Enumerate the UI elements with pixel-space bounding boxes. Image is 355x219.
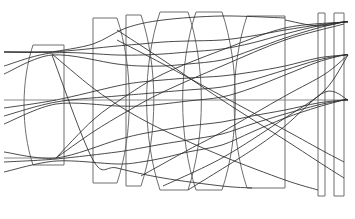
element-8-cover-plate <box>334 13 344 196</box>
cross-ray-5 <box>52 54 318 190</box>
crossing-ray-layer <box>4 16 348 190</box>
element-6-rear-positive <box>234 16 285 188</box>
cross-ray-9 <box>163 55 348 186</box>
cross-ray-1 <box>52 55 252 188</box>
optical-diagram-root <box>0 0 355 219</box>
lens-element-layer <box>24 12 344 196</box>
ray-bundle-layer <box>4 22 348 172</box>
ray-a2 <box>4 100 348 162</box>
optical-ray-trace-canvas <box>0 0 355 219</box>
element-4-biconvex <box>147 12 202 190</box>
cross-ray-2 <box>52 16 285 52</box>
ray-a1 <box>4 100 348 159</box>
